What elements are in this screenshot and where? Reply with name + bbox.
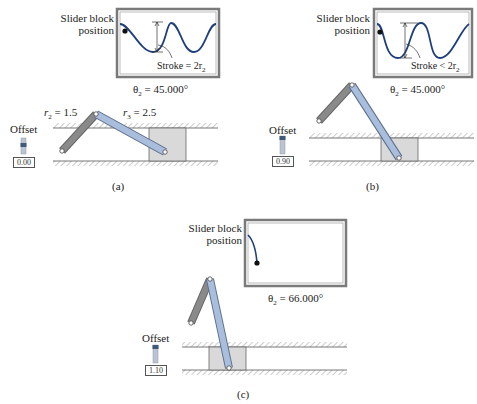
panel-a-r2-label: r2 = 1.5: [44, 106, 77, 123]
panel-a-bottom-rail-hatch: [53, 161, 218, 166]
panel-a-offset-value[interactable]: 0.00: [13, 157, 35, 168]
diagram-canvas: [0, 0, 477, 404]
panel-b-plot-label-line1: Slider block: [300, 12, 370, 24]
panel-a-stroke-label: Stroke = 2r2: [157, 60, 206, 76]
panel-a-plot-label: Slider block position: [48, 12, 114, 36]
panel-a-top-rail-hatch: [53, 123, 218, 128]
panel-b-theta-readout: θ2 = 45.000°: [390, 83, 445, 100]
panel-b-top-rail-hatch: [309, 133, 474, 138]
panel-c-top-rail-hatch: [182, 342, 347, 347]
panel-b-offset-slider-thumb[interactable]: [280, 136, 286, 140]
panel-c-bottom-rail-hatch: [182, 370, 347, 375]
panel-b-caption: (b): [366, 180, 379, 192]
panel-c-offset-value[interactable]: 1.10: [145, 365, 167, 376]
panel-c-plot-frame: [245, 220, 346, 286]
panel-c-plot-label: Slider block position: [172, 222, 242, 246]
panel-c-theta-readout: θ2 = 66.000°: [268, 292, 323, 309]
panel-a-curve-marker: [122, 28, 127, 33]
panel-a-offset-label: Offset: [10, 123, 37, 135]
panel-c-offset-slider-thumb[interactable]: [153, 345, 159, 349]
panel-a-offset-slider-thumb[interactable]: [21, 143, 27, 147]
panel-a-caption: (a): [112, 180, 124, 192]
panel-b-bottom-rail-hatch: [309, 161, 474, 166]
panel-a-plot-label-line2: position: [48, 24, 114, 36]
panel-c-caption: (c): [237, 388, 249, 400]
panel-c-plot-label-line2: position: [172, 234, 242, 246]
panel-c-plot-label-line1: Slider block: [172, 222, 242, 234]
panel-c-offset-label: Offset: [142, 332, 169, 344]
panel-b-offset-value[interactable]: 0.90: [272, 156, 294, 167]
panel-a-r3-label: r3 = 2.5: [123, 106, 156, 123]
panel-b-plot-label-line2: position: [300, 24, 370, 36]
panel-a-theta-readout: θ2 = 45.000°: [133, 83, 188, 100]
panel-c-curve-marker: [254, 260, 259, 265]
panel-a-plot-label-line1: Slider block: [48, 12, 114, 24]
panel-b-curve-marker: [377, 29, 382, 34]
panel-b-offset-label: Offset: [269, 124, 296, 136]
panel-b-plot-label: Slider block position: [300, 12, 370, 36]
panel-b-stroke-label: Stroke < 2r2: [411, 60, 460, 76]
